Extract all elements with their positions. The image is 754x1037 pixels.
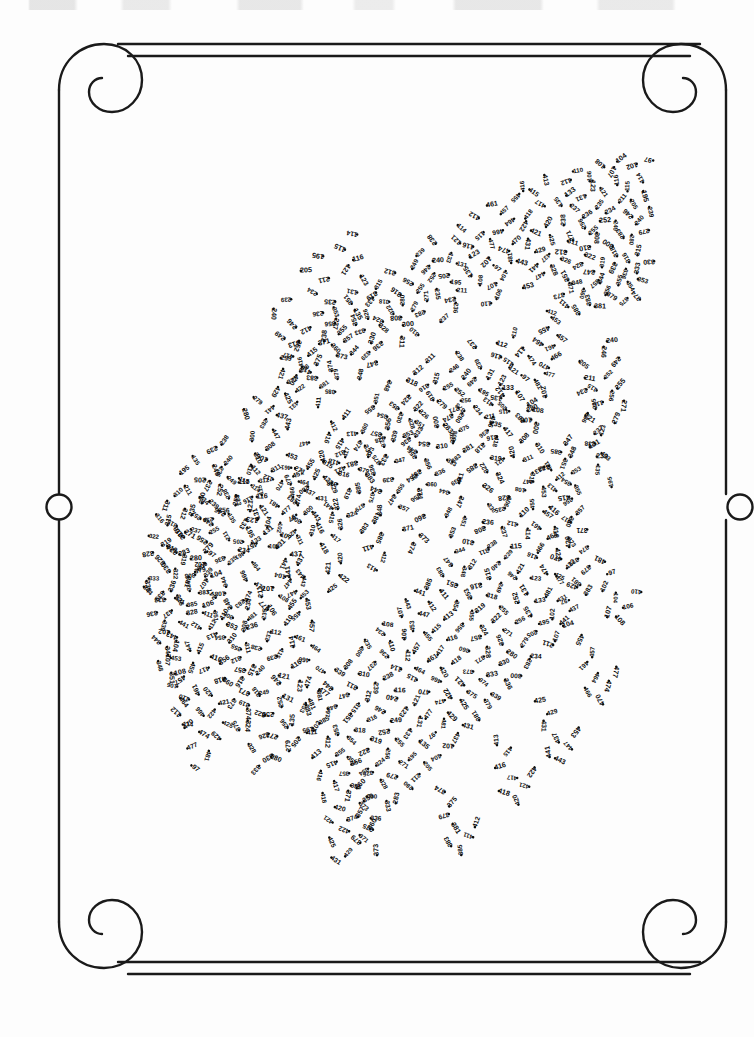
dot-number-label: 107 bbox=[395, 606, 404, 619]
dot-number-label: 97 bbox=[521, 373, 531, 383]
dot-number-label: 108 bbox=[514, 486, 526, 495]
dot-point: 239 bbox=[595, 451, 608, 460]
dot-number-label: 300 bbox=[531, 421, 542, 434]
dot-number-label: 420 bbox=[201, 685, 214, 698]
dot-point: 344 bbox=[219, 575, 229, 589]
dot-point: 461 bbox=[485, 199, 499, 209]
dot-number-label: 333 bbox=[384, 800, 393, 812]
dot-point: 114 bbox=[524, 527, 532, 540]
dot-number-label: 381 bbox=[470, 709, 482, 722]
dot-number-label: 481 bbox=[267, 498, 280, 510]
dot-number-label: 234 bbox=[575, 387, 588, 398]
dot-number-label: 249 bbox=[226, 474, 239, 486]
dot-number-label: 422 bbox=[518, 219, 530, 233]
dot-point: 333 bbox=[384, 799, 393, 812]
dot-number-label: 256 bbox=[576, 217, 587, 230]
dot-number-label: 455 bbox=[574, 633, 585, 647]
dot-point: 123 bbox=[358, 273, 370, 287]
dot-number-label: 110 bbox=[630, 588, 641, 596]
dot-number-label: 318 bbox=[473, 441, 486, 454]
dot-number-label: 441 bbox=[263, 404, 276, 417]
dot-number-label: 211 bbox=[457, 286, 468, 294]
dot-number-label: 237 bbox=[569, 202, 582, 215]
dot-number-label: 357 bbox=[398, 503, 411, 514]
dot-number-label: 308 bbox=[342, 657, 354, 670]
dot-point: 455 bbox=[187, 661, 198, 675]
dot-number-label: 344 bbox=[348, 343, 361, 356]
dot-point: 336 bbox=[166, 579, 177, 593]
dot-point: 97 bbox=[605, 567, 617, 577]
dot-point: 108 bbox=[593, 158, 607, 171]
dot-number-label: 464 bbox=[590, 672, 601, 685]
dot-point: 344 bbox=[347, 343, 360, 357]
dot-number-label: 333 bbox=[250, 764, 263, 777]
dot-number-label: 115 bbox=[333, 242, 347, 255]
dot-point: 310 bbox=[435, 442, 448, 450]
dot-number-label: 470 bbox=[313, 664, 326, 676]
dot-number-label: 354 bbox=[451, 600, 461, 613]
dot-point: 116 bbox=[612, 174, 620, 187]
dot-number-label: 107 bbox=[513, 388, 527, 403]
dot-point: 236 bbox=[377, 648, 391, 662]
dot-point: 411 bbox=[314, 396, 322, 409]
dot-point: 420 bbox=[333, 803, 347, 813]
dot-point: 311 bbox=[345, 679, 360, 692]
dot-point: 420 bbox=[542, 215, 555, 230]
dot-number-label: 466 bbox=[238, 569, 249, 582]
dot-point: 441 bbox=[527, 261, 541, 274]
dot-point: 416 bbox=[323, 431, 333, 445]
dot-number-label: 107 bbox=[603, 605, 614, 619]
dot-number-label: 351 bbox=[559, 458, 569, 471]
dot-point: 116 bbox=[489, 351, 503, 362]
dot-point: 249 bbox=[408, 257, 420, 271]
dot-point: 379 bbox=[448, 432, 456, 445]
dot-point: 466 bbox=[429, 675, 443, 686]
dot-point: 351 bbox=[558, 269, 572, 284]
dot-number-label: 421 bbox=[529, 226, 543, 237]
dot-number-label: 300 bbox=[510, 672, 522, 680]
dot-point: 326 bbox=[495, 633, 506, 647]
dot-number-label: 441 bbox=[527, 262, 540, 275]
dot-number-label: 415 bbox=[325, 759, 338, 770]
dot-number-label: 453 bbox=[569, 725, 583, 740]
dot-number-label: 374 bbox=[245, 708, 252, 720]
dot-number-label: 347 bbox=[338, 691, 351, 701]
dot-point: 375 bbox=[445, 795, 458, 809]
dot-number-label: 238 bbox=[426, 233, 439, 247]
dot-number-label: 211 bbox=[584, 374, 596, 383]
dot-point: 418 bbox=[449, 654, 463, 667]
dot-number-label: 271 bbox=[422, 290, 430, 302]
dot-number-label: 425 bbox=[534, 696, 547, 706]
dot-number-label: 381 bbox=[345, 459, 358, 469]
dot-point: 312 bbox=[257, 476, 270, 484]
dot-point: 353 bbox=[569, 465, 582, 476]
dot-point: 347 bbox=[441, 555, 454, 569]
dot-number-label: 477 bbox=[280, 503, 293, 516]
dot-point: 316 bbox=[620, 251, 632, 265]
dot-point: 333 bbox=[485, 669, 499, 678]
dot-number-label: 466 bbox=[492, 227, 505, 236]
dot-number-label: 300 bbox=[248, 430, 256, 442]
dot-point: 339 bbox=[389, 429, 399, 443]
dot-point: 310 bbox=[307, 524, 317, 538]
dot-point: 415 bbox=[498, 408, 510, 415]
dot-number-label: 123 bbox=[246, 515, 259, 525]
dot-number-label: 383 bbox=[582, 583, 594, 597]
dot-number-label: 116 bbox=[612, 174, 620, 186]
dot-number-label: 360 bbox=[457, 645, 470, 655]
dot-number-label: 236 bbox=[580, 412, 591, 425]
dot-point: 351 bbox=[445, 578, 460, 591]
dot-number-label: 421 bbox=[518, 781, 530, 790]
dot-point: 112 bbox=[495, 339, 509, 349]
dot-point: 308 bbox=[473, 524, 487, 535]
dot-number-label: 239 bbox=[646, 206, 655, 218]
dot-point: 447 bbox=[417, 609, 431, 618]
dot-point: 455 bbox=[510, 191, 524, 205]
dot-point: 412 bbox=[470, 815, 481, 829]
dot-point: 330 bbox=[143, 579, 154, 593]
dot-number-label: 235 bbox=[589, 398, 598, 410]
dot-number-label: 322 bbox=[173, 569, 180, 580]
dot-point: 422 bbox=[337, 571, 351, 584]
dot-number-label: 355 bbox=[468, 611, 475, 622]
dot-point: 246 bbox=[621, 207, 635, 221]
